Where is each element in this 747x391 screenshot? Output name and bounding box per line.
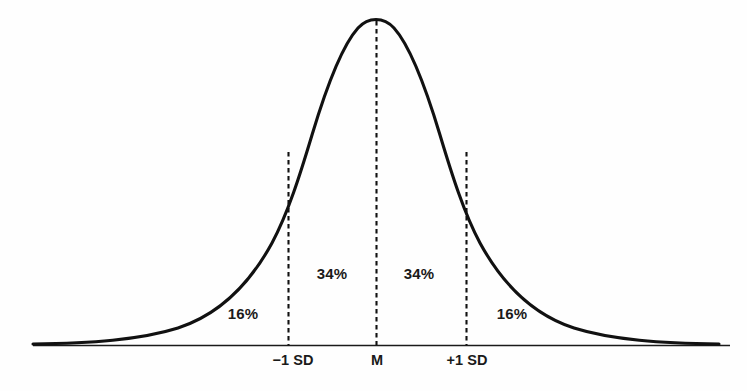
distribution-chart-canvas	[0, 0, 747, 391]
axis-label-mean: M	[371, 352, 383, 368]
axis-label-plus-1-sd: +1 SD	[446, 352, 487, 368]
normal-distribution-figure: 16% 34% 34% 16% −1 SD M +1 SD	[0, 0, 747, 391]
region-label-right-tail: 16%	[497, 305, 528, 322]
axis-label-minus-1-sd: −1 SD	[272, 352, 313, 368]
region-label-left-mid: 34%	[317, 265, 348, 282]
region-label-right-mid: 34%	[404, 265, 435, 282]
region-label-left-tail: 16%	[228, 305, 259, 322]
